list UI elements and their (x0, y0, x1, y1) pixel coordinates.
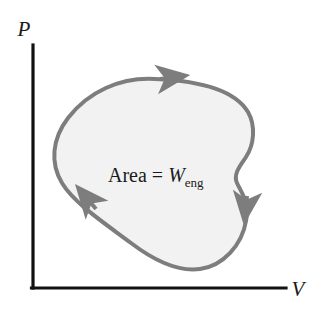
area-annotation-subscript: eng (185, 175, 204, 190)
pv-diagram-figure: P V Area = Weng (0, 0, 317, 319)
arrow-top-icon (160, 77, 174, 79)
diagram-canvas: P V Area = Weng (0, 0, 317, 319)
x-axis-label: V (292, 277, 307, 301)
area-annotation-prefix: Area = (108, 164, 168, 186)
y-axis-label: P (17, 17, 31, 41)
arrow-right-icon (246, 196, 247, 209)
